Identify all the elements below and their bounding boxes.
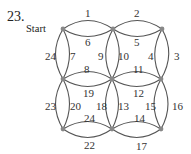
node-A bbox=[61, 27, 66, 32]
edge-label-14: 14 bbox=[134, 112, 146, 124]
edge-label-18: 18 bbox=[96, 100, 108, 112]
edge-4 bbox=[155, 29, 162, 79]
edge-label-17: 17 bbox=[136, 140, 148, 152]
edge-label-20: 20 bbox=[70, 100, 82, 112]
edge-label-11: 11 bbox=[133, 63, 144, 75]
edge-label-19: 19 bbox=[83, 87, 95, 99]
edge-label-16: 16 bbox=[172, 100, 184, 112]
edge-label-8: 8 bbox=[84, 63, 90, 75]
node-E bbox=[110, 77, 115, 82]
edge-9 bbox=[106, 29, 113, 79]
edge-2 bbox=[113, 21, 162, 30]
node-G bbox=[61, 127, 66, 132]
edge-label-7: 7 bbox=[70, 50, 76, 62]
edge-label-12: 12 bbox=[133, 87, 144, 99]
edge-label-22: 22 bbox=[84, 139, 95, 151]
node-C bbox=[160, 27, 165, 32]
nodes bbox=[61, 27, 165, 132]
edge-label-2: 2 bbox=[134, 7, 140, 19]
edge-label-24a: 24 bbox=[45, 50, 57, 62]
edge-label-15: 15 bbox=[145, 100, 157, 112]
edge-20 bbox=[63, 79, 70, 129]
edge-label-9: 9 bbox=[98, 50, 104, 62]
edge-17 bbox=[112, 129, 161, 138]
problem-number: 23. bbox=[7, 9, 25, 24]
edge-12 bbox=[112, 79, 161, 87]
edge-22 bbox=[63, 129, 112, 138]
node-I bbox=[159, 127, 164, 132]
graph-diagram: 23. Start 1 2 6 5 24 7 9 10 4 3 8 11 19 … bbox=[0, 0, 191, 154]
edge-7 bbox=[63, 29, 70, 79]
node-H bbox=[110, 127, 115, 132]
edge-label-10: 10 bbox=[118, 50, 130, 62]
edge-label-5: 5 bbox=[134, 36, 140, 48]
edge-label-1: 1 bbox=[85, 7, 91, 19]
edge-label-4: 4 bbox=[148, 50, 154, 62]
node-B bbox=[111, 27, 116, 32]
start-label: Start bbox=[26, 23, 46, 34]
node-F bbox=[159, 77, 164, 82]
edge-1 bbox=[63, 21, 113, 30]
edge-label-23: 23 bbox=[45, 100, 57, 112]
edge-label-6: 6 bbox=[85, 36, 91, 48]
edge-23 bbox=[56, 79, 64, 129]
edge-label-13: 13 bbox=[118, 100, 130, 112]
edge-label-24b: 24 bbox=[84, 112, 96, 124]
edge-3 bbox=[161, 29, 169, 79]
edge-24a bbox=[56, 29, 64, 79]
edge-19 bbox=[63, 79, 112, 87]
node-D bbox=[61, 77, 66, 82]
edge-label-3: 3 bbox=[174, 50, 180, 62]
edge-16 bbox=[161, 79, 168, 129]
